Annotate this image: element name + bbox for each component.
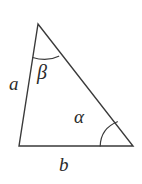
side-label-a: a <box>9 74 19 93</box>
triangle-outline-path <box>19 24 133 146</box>
side-label-b: b <box>59 155 69 174</box>
angle-label-alpha: α <box>74 107 84 126</box>
alpha-angle-arc <box>100 122 117 146</box>
angle-label-beta: β <box>37 62 47 82</box>
geometry-figure: a b β α <box>0 0 142 184</box>
beta-angle-arc <box>33 56 59 59</box>
triangle-diagram-svg <box>0 0 142 184</box>
